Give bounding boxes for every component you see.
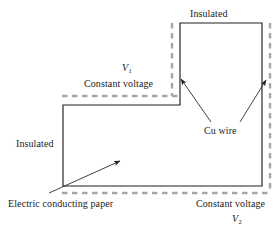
label-v2: V2 bbox=[232, 213, 241, 225]
label-cu-wire: Cu wire bbox=[204, 125, 237, 136]
label-v1: V1 bbox=[122, 62, 131, 74]
label-v2-subscript: 2 bbox=[238, 218, 241, 225]
conducting-paper-outline bbox=[63, 23, 262, 186]
label-constant-voltage-top: Constant voltage bbox=[84, 78, 153, 89]
label-electric-conducting-paper: Electric conducting paper bbox=[8, 198, 113, 209]
label-insulated-left: Insulated bbox=[16, 138, 54, 149]
leader-cu-wire-left-arrow bbox=[181, 79, 211, 122]
label-constant-voltage-bottom: Constant voltage bbox=[196, 198, 265, 209]
leader-conducting-paper-arrow bbox=[49, 161, 120, 193]
figure-container: Insulated V1 Constant voltage Cu wire In… bbox=[0, 0, 280, 236]
label-v1-subscript: 1 bbox=[128, 67, 131, 74]
label-insulated-top: Insulated bbox=[190, 8, 228, 19]
